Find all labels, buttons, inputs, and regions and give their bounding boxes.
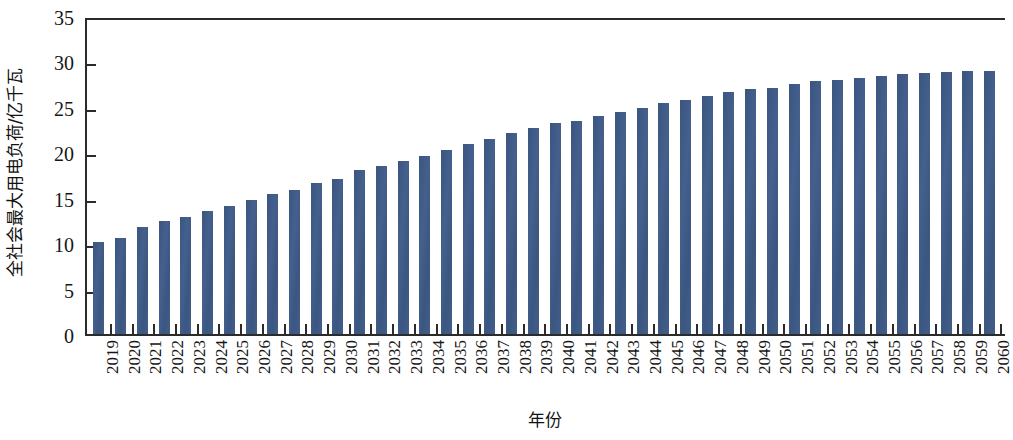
x-tick-label: 2019 bbox=[104, 340, 121, 402]
bar bbox=[93, 242, 104, 334]
bar bbox=[202, 211, 213, 334]
bar bbox=[702, 96, 713, 334]
x-tick-mark bbox=[218, 324, 220, 334]
bar bbox=[593, 116, 604, 334]
x-tick-label: 2036 bbox=[473, 340, 490, 402]
x-tick-label: 2045 bbox=[669, 340, 686, 402]
x-tick-mark bbox=[544, 324, 546, 334]
y-tick-label: 30 bbox=[54, 53, 74, 73]
bar bbox=[311, 183, 322, 334]
bar bbox=[159, 221, 170, 334]
x-tick-mark bbox=[653, 324, 655, 334]
x-tick-mark bbox=[805, 324, 807, 334]
x-tick-mark bbox=[609, 324, 611, 334]
bar bbox=[550, 123, 561, 334]
bar bbox=[637, 108, 648, 334]
x-tick-label: 2048 bbox=[734, 340, 751, 402]
x-tick-mark bbox=[110, 324, 112, 334]
x-tick-label: 2032 bbox=[386, 340, 403, 402]
x-tick-mark bbox=[175, 324, 177, 334]
x-tick-label: 2027 bbox=[278, 340, 295, 402]
bar bbox=[506, 133, 517, 334]
x-tick-mark bbox=[305, 324, 307, 334]
x-tick-label: 2053 bbox=[843, 340, 860, 402]
x-tick-mark bbox=[870, 324, 872, 334]
bar bbox=[854, 78, 865, 334]
x-tick-mark bbox=[197, 324, 199, 334]
x-tick-label: 2029 bbox=[321, 340, 338, 402]
bar bbox=[615, 112, 626, 334]
bar bbox=[398, 161, 409, 334]
y-tick-label: 0 bbox=[64, 326, 74, 346]
bar bbox=[962, 71, 973, 334]
x-tick-mark bbox=[523, 324, 525, 334]
x-tick-mark bbox=[392, 324, 394, 334]
bar bbox=[810, 81, 821, 334]
bar bbox=[658, 103, 669, 334]
x-tick-label: 2021 bbox=[147, 340, 164, 402]
x-tick-mark bbox=[979, 324, 981, 334]
x-tick-label: 2022 bbox=[169, 340, 186, 402]
x-tick-mark bbox=[327, 324, 329, 334]
x-tick-label: 2026 bbox=[256, 340, 273, 402]
x-tick-mark bbox=[262, 324, 264, 334]
x-tick-mark bbox=[414, 324, 416, 334]
x-tick-label: 2056 bbox=[908, 340, 925, 402]
bar bbox=[354, 170, 365, 334]
x-tick-mark bbox=[783, 324, 785, 334]
bar bbox=[941, 72, 952, 334]
bar bbox=[180, 217, 191, 334]
bar bbox=[289, 190, 300, 334]
bar bbox=[767, 88, 778, 334]
bar bbox=[246, 200, 257, 334]
x-tick-label: 2052 bbox=[821, 340, 838, 402]
x-tick-label: 2044 bbox=[647, 340, 664, 402]
x-tick-label: 2034 bbox=[430, 340, 447, 402]
bar bbox=[376, 166, 387, 334]
x-tick-mark bbox=[675, 324, 677, 334]
x-tick-mark bbox=[914, 324, 916, 334]
x-tick-label: 2037 bbox=[495, 340, 512, 402]
x-tick-label: 2033 bbox=[408, 340, 425, 402]
x-tick-mark bbox=[892, 324, 894, 334]
x-tick-label: 2020 bbox=[126, 340, 143, 402]
x-tick-mark bbox=[827, 324, 829, 334]
x-tick-mark bbox=[588, 324, 590, 334]
bar bbox=[441, 150, 452, 334]
x-tick-label: 2054 bbox=[864, 340, 881, 402]
x-tick-mark bbox=[762, 324, 764, 334]
x-tick-mark bbox=[696, 324, 698, 334]
x-tick-mark bbox=[718, 324, 720, 334]
bar bbox=[137, 227, 148, 334]
x-tick-label: 2024 bbox=[213, 340, 230, 402]
bar bbox=[332, 179, 343, 334]
x-tick-mark bbox=[1000, 324, 1002, 334]
y-tick-label: 10 bbox=[54, 235, 74, 255]
y-tick-label: 5 bbox=[64, 281, 74, 301]
x-tick-mark bbox=[957, 324, 959, 334]
y-axis-title: 全社会最大用电负荷/亿千瓦 bbox=[0, 0, 28, 345]
y-tick-label: 35 bbox=[54, 8, 74, 28]
bar bbox=[876, 76, 887, 334]
y-tick-label: 25 bbox=[54, 99, 74, 119]
bar bbox=[789, 84, 800, 334]
x-tick-mark bbox=[349, 324, 351, 334]
x-tick-label: 2031 bbox=[365, 340, 382, 402]
x-tick-mark bbox=[566, 324, 568, 334]
x-tick-label: 2059 bbox=[973, 340, 990, 402]
x-tick-label: 2040 bbox=[560, 340, 577, 402]
x-tick-mark bbox=[848, 324, 850, 334]
bar bbox=[745, 89, 756, 334]
x-axis-title: 年份 bbox=[85, 406, 1005, 431]
bar bbox=[680, 100, 691, 334]
x-tick-label: 2051 bbox=[799, 340, 816, 402]
x-axis-tick-labels: 2019202020212022202320242025202620272028… bbox=[85, 340, 1005, 402]
x-tick-mark bbox=[240, 324, 242, 334]
x-tick-label: 2039 bbox=[538, 340, 555, 402]
y-axis-title-text: 全社会最大用电负荷/亿千瓦 bbox=[2, 68, 27, 278]
y-tick-label: 15 bbox=[54, 190, 74, 210]
bar bbox=[723, 92, 734, 334]
bar bbox=[919, 73, 930, 334]
x-tick-label: 2049 bbox=[756, 340, 773, 402]
